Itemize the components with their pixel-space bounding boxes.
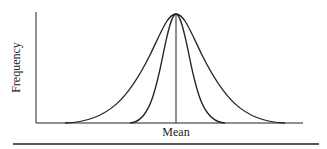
y-axis-label: Frequency (9, 38, 24, 98)
wide-curve (65, 14, 285, 123)
narrow-curve (130, 14, 225, 123)
x-axis-label: Mean (156, 125, 196, 140)
